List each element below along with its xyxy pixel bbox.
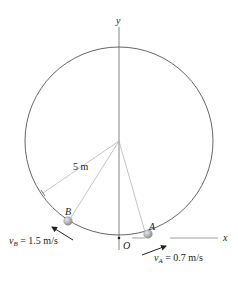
x-axis-label: x	[223, 233, 227, 243]
y-axis-label: y	[116, 16, 120, 26]
radius-label: 5 m	[73, 162, 88, 172]
line-to-a	[119, 141, 145, 232]
velocity-b-label: vB = 1.5 m/s	[9, 236, 58, 248]
ball-b	[64, 217, 73, 226]
velocity-a-label: vA = 0.7 m/s	[154, 253, 203, 265]
point-a-label: A	[149, 222, 155, 232]
point-b-label: B	[65, 207, 71, 217]
line-to-b	[70, 141, 119, 219]
origin-point	[118, 237, 121, 240]
origin-label: O	[123, 241, 130, 251]
